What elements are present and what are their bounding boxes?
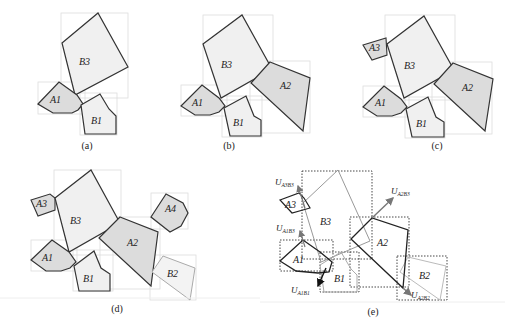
- vector-label-ua3b3: UA3B3: [275, 177, 294, 188]
- label-e-a2: A2: [376, 237, 388, 248]
- caption-d: (d): [111, 303, 123, 314]
- label-e-b3: B3: [320, 216, 331, 227]
- bbox-b3: [302, 171, 372, 259]
- label-e-a1: A1: [292, 254, 304, 265]
- polygon-a1: [280, 240, 332, 273]
- vector-label-ua1b3: UA1B3: [276, 223, 295, 234]
- label-d-b3: B3: [70, 215, 81, 226]
- label-d-a4: A4: [164, 203, 176, 214]
- vector-ua1b1-arrow: [318, 268, 326, 286]
- label-d-b2: B2: [167, 268, 178, 279]
- vector-label-ua1b1: UA1B1: [291, 285, 310, 296]
- label-d-a1: A1: [41, 252, 53, 263]
- label-d-b1: B1: [83, 273, 94, 284]
- label-b-b3: B3: [221, 59, 232, 70]
- panel-b: [181, 15, 310, 137]
- panel-a: [38, 13, 128, 135]
- polygon-a2: [351, 218, 408, 288]
- vector-ua2b2-arrow: [403, 288, 411, 295]
- label-c-a3: A3: [368, 42, 380, 53]
- label-e-a3: A3: [284, 199, 296, 210]
- polygon-b1: [406, 97, 444, 137]
- label-c-a2: A2: [461, 82, 473, 93]
- panel-d: [31, 170, 196, 300]
- label-b-a1: A1: [191, 97, 203, 108]
- vector-ua3b3-arrow: [298, 186, 305, 208]
- label-a-a1: A1: [49, 94, 61, 105]
- polygon-b1: [224, 96, 261, 136]
- label-a-b1: B1: [91, 115, 102, 126]
- label-c-b1: B1: [416, 118, 427, 129]
- vector-ua1b3-arrow: [300, 231, 305, 247]
- label-b-a2: A2: [279, 80, 291, 91]
- label-c-a1: A1: [374, 97, 386, 108]
- panel-c: [363, 15, 493, 138]
- label-d-a2: A2: [126, 237, 138, 248]
- caption-c: (c): [431, 140, 442, 151]
- vector-label-ua2b3: UA2B3: [391, 186, 410, 197]
- caption-e: (e): [367, 306, 378, 317]
- caption-a: (a): [81, 140, 92, 151]
- label-a-b3: B3: [79, 56, 90, 67]
- label-c-b3: B3: [404, 60, 415, 71]
- vector-label-ua2b2: UA2B2: [411, 290, 430, 301]
- caption-b: (b): [223, 140, 235, 151]
- polygon-b3: [62, 13, 128, 95]
- polygon-b1: [74, 251, 110, 291]
- vector-ua2b3-arrow: [372, 198, 393, 218]
- polygon-b1: [81, 94, 116, 134]
- label-b-b1: B1: [233, 117, 244, 128]
- label-e-b2: B2: [419, 270, 430, 281]
- label-e-b1: B1: [334, 273, 345, 284]
- figure-canvas: B3 A1 B1 B3 A1 B1 A2 A3 B3 A1 B1 A2 A3 B…: [0, 0, 505, 329]
- label-d-a3: A3: [35, 198, 47, 209]
